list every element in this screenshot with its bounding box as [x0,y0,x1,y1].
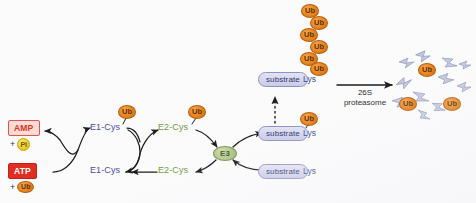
e2-cys-bottom-label: E2-Cys [158,166,188,175]
lys-label-unmodified: Lys [303,167,316,176]
free-ubiquitin-icon-2: Ub [399,97,417,111]
e1-cys-bottom-label: E1-Cys [90,166,120,175]
peptide-fragment [457,82,471,92]
peptide-fragment [395,75,414,91]
ubiquitin-icon: Ub [17,181,34,194]
substrate-box-mono: substrate [258,126,308,141]
arrow-e3-to-e2-bottom [196,160,216,172]
peptide-fragment [437,72,455,86]
phosphate-icon: Pi [17,138,30,151]
polyub-unit-2: Ub [310,16,328,30]
polyub-unit-6: Ub [310,62,328,76]
ubiquitin-pathway-diagram: AMP + Pi ATP + Ub E1-Cys E1-Cys Ub E2-Cy… [0,0,476,203]
plus-sign: + [10,139,15,149]
peptide-fragment [399,58,414,68]
e1-cys-top-label: E1-Cys [90,123,120,132]
energy-reactants: ATP + Ub [8,163,37,193]
free-ubiquitin-icon-3: Ub [443,97,461,111]
pi-row: + Pi [8,138,30,151]
amp-label: AMP [8,120,40,136]
lys-label-poly: Lys [303,75,316,84]
peptide-fragment [459,61,471,69]
ubiquitin-icon-substrate: Ub [300,112,318,126]
stem-ub-e2 [192,118,196,124]
arrow-e2-to-e3 [196,130,217,147]
energy-products: AMP + Pi [8,120,40,151]
free-ubiquitin-icon-1: Ub [418,63,436,77]
ubiquitin-icon-e2: Ub [188,105,206,119]
proteasome-line-1: 26S [338,88,392,98]
peptide-fragment [418,110,430,119]
e3-ligase-label: E3 [213,146,237,161]
polyub-unit-4: Ub [310,40,328,54]
plus-sign: + [10,182,15,192]
ubiquitin-icon-e1: Ub [118,105,136,119]
peptide-fragment [415,50,431,63]
proteasome-caption: 26S proteasome [338,88,392,108]
stem-ub-e1 [123,118,126,124]
peptide-fragment [442,58,457,67]
substrate-box-poly: substrate [258,72,308,87]
proteasome-line-2: proteasome [338,98,392,108]
substrate-box-unmodified: substrate [258,164,308,179]
atp-label: ATP [8,163,37,179]
lys-label-mono: Lys [303,129,316,138]
e2-cys-top-label: E2-Cys [158,123,188,132]
ub-row: + Ub [8,181,34,194]
